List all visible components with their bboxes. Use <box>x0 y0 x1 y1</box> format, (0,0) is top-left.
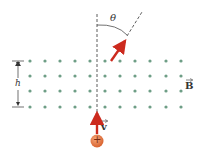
field-dot <box>88 89 91 92</box>
field-dot <box>164 74 167 77</box>
field-dot <box>43 74 46 77</box>
angle-arc <box>97 25 127 35</box>
field-dot <box>148 89 151 92</box>
field-dot <box>179 105 182 108</box>
field-dot <box>73 74 76 77</box>
field-dot <box>28 74 31 77</box>
field-dot <box>43 59 46 62</box>
field-dot <box>28 89 31 92</box>
field-dot <box>148 105 151 108</box>
field-dot <box>88 59 91 62</box>
field-dot <box>58 59 61 62</box>
field-dot <box>118 74 121 77</box>
field-dot <box>179 89 182 92</box>
field-dot <box>43 105 46 108</box>
field-dot <box>73 89 76 92</box>
h-label: h <box>15 78 21 88</box>
charge-sign: + <box>93 134 101 145</box>
exit-velocity-arrow <box>111 41 125 61</box>
field-dot <box>73 59 76 62</box>
theta-label: θ <box>110 12 116 23</box>
exit-direction-line <box>127 12 142 36</box>
field-dot <box>118 59 121 62</box>
field-dot <box>148 59 151 62</box>
field-dot <box>58 74 61 77</box>
field-dot <box>103 105 106 108</box>
field-dot <box>103 89 106 92</box>
field-dot <box>133 89 136 92</box>
field-dot <box>133 105 136 108</box>
field-dot <box>103 59 106 62</box>
field-dot <box>43 89 46 92</box>
field-dot <box>58 105 61 108</box>
field-dot <box>118 89 121 92</box>
v-label: v <box>101 121 107 132</box>
field-dot <box>164 59 167 62</box>
field-dot <box>164 89 167 92</box>
field-dot <box>164 105 167 108</box>
field-dot <box>148 74 151 77</box>
field-dot <box>179 59 182 62</box>
field-dot <box>58 89 61 92</box>
field-dot <box>118 105 121 108</box>
field-dot <box>133 59 136 62</box>
magnetic-field-dots <box>28 59 182 108</box>
diagram-canvas <box>0 0 205 157</box>
field-dot <box>73 105 76 108</box>
B-label: B <box>185 80 193 91</box>
field-dot <box>28 105 31 108</box>
field-dot <box>133 74 136 77</box>
field-dot <box>88 74 91 77</box>
field-dot <box>103 74 106 77</box>
field-dot <box>179 74 182 77</box>
field-dot <box>28 59 31 62</box>
field-dot <box>88 105 91 108</box>
